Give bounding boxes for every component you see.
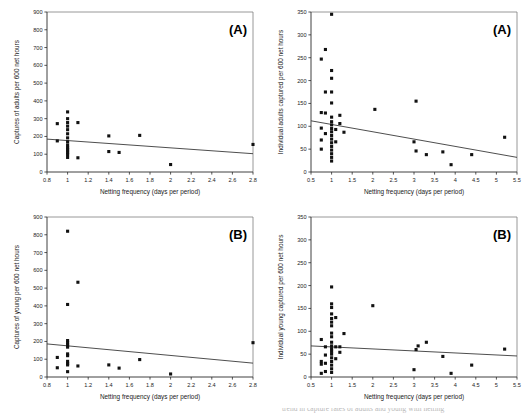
y-tick-label: 0 bbox=[303, 169, 306, 175]
y-tick-label: 200 bbox=[297, 78, 306, 84]
data-point bbox=[66, 136, 69, 139]
data-point bbox=[66, 230, 69, 233]
data-point bbox=[320, 111, 323, 114]
data-point bbox=[320, 372, 323, 375]
y-tick-label: 500 bbox=[33, 285, 42, 291]
y-tick-label: 250 bbox=[297, 260, 306, 266]
y-tick-label: 600 bbox=[33, 62, 42, 68]
data-point bbox=[330, 356, 333, 359]
data-point bbox=[334, 345, 337, 348]
data-point bbox=[450, 372, 453, 375]
y-tick-label: 100 bbox=[297, 328, 306, 334]
y-tick-label: 300 bbox=[33, 116, 42, 122]
data-point bbox=[66, 125, 69, 128]
data-point bbox=[330, 90, 333, 93]
data-point bbox=[330, 127, 333, 130]
data-point bbox=[324, 345, 327, 348]
x-tick-label: 2.5 bbox=[390, 382, 398, 388]
data-point bbox=[425, 153, 428, 156]
x-tick-label: 2.4 bbox=[208, 177, 216, 183]
y-tick-label: 900 bbox=[33, 9, 42, 15]
data-point bbox=[470, 153, 473, 156]
trend-line bbox=[311, 121, 517, 158]
x-tick-label: 1.6 bbox=[126, 382, 134, 388]
x-tick-label: 1 bbox=[66, 382, 69, 388]
data-point bbox=[169, 372, 172, 375]
y-tick-label: 700 bbox=[33, 45, 42, 51]
x-tick-label: 1.5 bbox=[348, 382, 356, 388]
data-point bbox=[330, 360, 333, 363]
x-axis-title: Netting frequency (days per period) bbox=[100, 188, 200, 196]
data-point bbox=[338, 114, 341, 117]
data-point bbox=[334, 140, 337, 143]
data-point bbox=[470, 364, 473, 367]
x-axis-title: Netting frequency (days per period) bbox=[364, 393, 464, 401]
data-point bbox=[66, 110, 69, 113]
x-tick-label: 1.6 bbox=[126, 177, 134, 183]
x-tick-label: 2.5 bbox=[390, 177, 398, 183]
data-point bbox=[330, 347, 333, 350]
data-point bbox=[66, 370, 69, 373]
y-tick-label: 150 bbox=[297, 305, 306, 311]
data-point bbox=[330, 317, 333, 320]
data-point bbox=[66, 128, 69, 131]
x-tick-label: 2.6 bbox=[229, 177, 237, 183]
panel-label: (B) bbox=[229, 227, 247, 242]
x-tick-label: 5 bbox=[495, 177, 498, 183]
data-point bbox=[330, 77, 333, 80]
y-tick-label: 350 bbox=[297, 214, 306, 220]
x-tick-label: 1 bbox=[330, 177, 333, 183]
x-tick-label: 0.5 bbox=[307, 382, 315, 388]
data-point bbox=[342, 131, 345, 134]
y-tick-label: 200 bbox=[33, 338, 42, 344]
data-point bbox=[66, 140, 69, 143]
x-tick-label: 4.5 bbox=[472, 382, 480, 388]
caption-strip: trend in capture rates of adults and you… bbox=[0, 408, 528, 419]
data-point bbox=[66, 121, 69, 124]
data-point bbox=[251, 143, 254, 146]
data-point bbox=[330, 350, 333, 353]
x-tick-label: 3.5 bbox=[431, 177, 439, 183]
data-point bbox=[56, 122, 59, 125]
data-point bbox=[107, 150, 110, 153]
data-point bbox=[330, 353, 333, 356]
panel-label: (A) bbox=[493, 22, 511, 37]
data-point bbox=[118, 151, 121, 154]
x-tick-label: 2 bbox=[371, 382, 374, 388]
data-point bbox=[330, 159, 333, 162]
trend-line bbox=[47, 139, 253, 154]
trend-line bbox=[47, 344, 253, 363]
data-point bbox=[503, 348, 506, 351]
data-point bbox=[334, 357, 337, 360]
data-point bbox=[338, 345, 341, 348]
x-tick-label: 2 bbox=[169, 177, 172, 183]
data-point bbox=[66, 153, 69, 156]
data-point bbox=[320, 363, 323, 366]
x-tick-label: 2.6 bbox=[229, 382, 237, 388]
x-tick-label: 4 bbox=[454, 382, 457, 388]
y-tick-label: 300 bbox=[297, 32, 306, 38]
x-tick-label: 2.4 bbox=[208, 382, 216, 388]
data-point bbox=[342, 332, 345, 335]
y-tick-label: 500 bbox=[33, 80, 42, 86]
data-point bbox=[251, 341, 254, 344]
data-point bbox=[330, 367, 333, 370]
y-tick-label: 700 bbox=[33, 250, 42, 256]
y-tick-label: 300 bbox=[33, 321, 42, 327]
y-tick-label: 0 bbox=[39, 374, 42, 380]
x-tick-label: 4 bbox=[454, 177, 457, 183]
y-axis-title: Captures of adults per 600 net hours bbox=[13, 40, 21, 144]
data-point bbox=[334, 316, 337, 319]
x-tick-label: 2.8 bbox=[249, 177, 257, 183]
x-tick-label: 4.5 bbox=[472, 177, 480, 183]
data-point-group bbox=[320, 285, 506, 375]
y-tick-label: 800 bbox=[33, 27, 42, 33]
data-point bbox=[324, 90, 327, 93]
y-tick-label: 250 bbox=[297, 55, 306, 61]
data-point bbox=[169, 163, 172, 166]
data-point bbox=[417, 344, 420, 347]
x-tick-label: 3 bbox=[412, 177, 415, 183]
data-point bbox=[450, 163, 453, 166]
data-point-group bbox=[56, 110, 255, 166]
data-point bbox=[324, 111, 327, 114]
